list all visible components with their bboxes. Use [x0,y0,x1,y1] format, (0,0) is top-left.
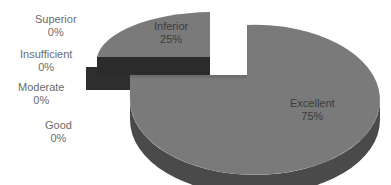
label-inferior-name: Inferior [154,20,188,33]
slice-inferior-side [97,57,210,75]
slice-excellent-cut-wall [130,75,247,78]
label-insufficient: Insufficient 0% [20,48,72,74]
label-good-pct: 0% [45,132,72,145]
label-excellent: Excellent 75% [290,97,335,123]
label-good: Good 0% [45,119,72,145]
slice-zero-sides [86,67,97,90]
label-superior-name: Superior [35,13,77,26]
label-insufficient-pct: 0% [20,61,72,74]
label-good-name: Good [45,119,72,132]
label-insufficient-name: Insufficient [20,48,72,61]
pie-chart: Superior 0% Insufficient 0% Moderate 0% … [0,0,391,185]
label-excellent-pct: 75% [290,110,335,123]
label-superior-pct: 0% [35,26,77,39]
label-moderate-pct: 0% [18,94,64,107]
label-inferior: Inferior 25% [154,20,188,46]
label-moderate: Moderate 0% [18,81,64,107]
label-moderate-name: Moderate [18,81,64,94]
label-superior: Superior 0% [35,13,77,39]
label-excellent-name: Excellent [290,97,335,110]
label-inferior-pct: 25% [154,33,188,46]
